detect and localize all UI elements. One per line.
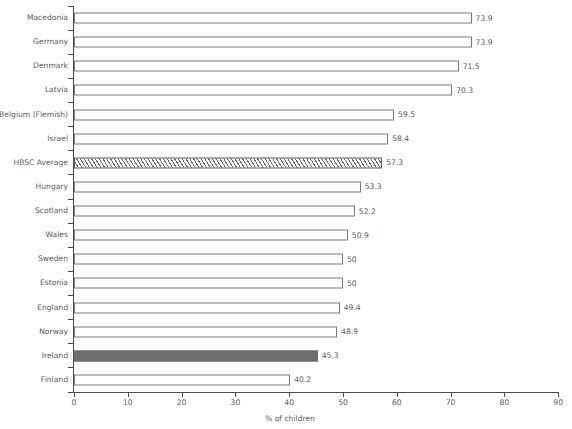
bar — [74, 326, 337, 337]
bar — [74, 206, 355, 217]
x-tick-mark — [451, 392, 452, 397]
x-tick-label: 30 — [231, 399, 241, 407]
bar-row: Hungary53.3 — [0, 175, 572, 199]
y-axis-tick — [68, 367, 74, 368]
bar-row: Finland40.2 — [0, 368, 572, 392]
bar-container: 53.3 — [74, 181, 361, 192]
bar-row: Estonia50 — [0, 271, 572, 295]
bar — [74, 157, 382, 168]
x-tick-label: 90 — [553, 399, 563, 407]
y-axis-tick — [68, 54, 74, 55]
category-label: Macedonia — [27, 14, 68, 22]
bar — [74, 302, 340, 313]
bar-row: Wales50.9 — [0, 223, 572, 247]
y-axis-tick — [68, 126, 74, 127]
bar-row: Ireland45.3 — [0, 344, 572, 368]
category-label: Norway — [39, 328, 68, 336]
y-axis-tick — [68, 174, 74, 175]
bar-container: 50.9 — [74, 230, 348, 241]
bar — [74, 254, 343, 265]
bar-value-label: 52.2 — [359, 207, 376, 215]
y-axis-tick — [68, 6, 74, 7]
bar-row: Belgium (Flemish)59.5 — [0, 103, 572, 127]
category-label: Hungary — [36, 183, 68, 191]
bar-value-label: 48.9 — [341, 328, 358, 336]
bar-container: 50 — [74, 254, 343, 265]
category-label: Germany — [33, 38, 68, 46]
category-label: Israel — [47, 135, 68, 143]
bar-value-label: 45.3 — [322, 352, 339, 360]
y-axis-tick — [68, 78, 74, 79]
bar — [74, 374, 290, 385]
bar-rows: Macedonia73.9Germany73.9Denmark71.5Latvi… — [0, 6, 572, 392]
x-tick-mark — [504, 392, 505, 397]
x-tick-mark — [182, 392, 183, 397]
x-tick-mark — [343, 392, 344, 397]
x-axis-ticks: 0102030405060708090 — [0, 392, 572, 412]
bar — [74, 133, 388, 144]
bar-value-label: 53.3 — [365, 183, 382, 191]
bar-value-label: 73.9 — [476, 14, 493, 22]
category-label: Finland — [41, 376, 68, 384]
bar-value-label: 49.4 — [344, 304, 361, 312]
x-tick-label: 20 — [177, 399, 187, 407]
bar-container: 48.9 — [74, 326, 337, 337]
x-tick-mark — [558, 392, 559, 397]
bar-value-label: 50.9 — [352, 231, 369, 239]
bar — [74, 13, 472, 24]
y-axis-tick — [68, 199, 74, 200]
bar-value-label: 57.3 — [386, 159, 403, 167]
y-axis-tick — [68, 295, 74, 296]
bar-row: England49.4 — [0, 296, 572, 320]
bar-row: Denmark71.5 — [0, 54, 572, 78]
bar-container: 45.3 — [74, 350, 318, 361]
bar-value-label: 59.5 — [398, 111, 415, 119]
bar-container: 70.3 — [74, 85, 452, 96]
y-axis-tick — [68, 30, 74, 31]
bar-container: 73.9 — [74, 13, 472, 24]
bar — [74, 230, 348, 241]
y-axis-tick — [68, 319, 74, 320]
category-label: Estonia — [40, 280, 68, 288]
category-label: Ireland — [42, 352, 68, 360]
category-label: England — [37, 304, 68, 312]
bar — [74, 61, 459, 72]
bar — [74, 181, 361, 192]
bar-value-label: 73.9 — [476, 38, 493, 46]
bar-row: Norway48.9 — [0, 320, 572, 344]
x-axis-title-text: % of children — [265, 414, 315, 423]
x-tick-mark — [289, 392, 290, 397]
x-tick-label: 60 — [392, 399, 402, 407]
bar-row: Scotland52.2 — [0, 199, 572, 223]
bar-container: 58.4 — [74, 133, 388, 144]
bar-container: 40.2 — [74, 374, 290, 385]
bar — [74, 85, 452, 96]
x-tick-mark — [397, 392, 398, 397]
bar-container: 59.5 — [74, 109, 394, 120]
bar — [74, 350, 318, 361]
category-label: Latvia — [45, 87, 68, 95]
bar-container: 50 — [74, 278, 343, 289]
x-tick-mark — [235, 392, 236, 397]
bar-value-label: 70.3 — [456, 87, 473, 95]
category-label: Denmark — [33, 63, 68, 71]
category-label: Wales — [46, 231, 68, 239]
bar-row: Sweden50 — [0, 247, 572, 271]
bar-row: Germany73.9 — [0, 30, 572, 54]
bar-container: 49.4 — [74, 302, 340, 313]
bar-container: 57.3 — [74, 157, 382, 168]
x-tick-label: 80 — [500, 399, 510, 407]
y-axis-tick — [68, 271, 74, 272]
bar-row: Macedonia73.9 — [0, 6, 572, 30]
bar-row: Israel58.4 — [0, 127, 572, 151]
x-tick-label: 10 — [123, 399, 133, 407]
y-axis-tick — [68, 223, 74, 224]
x-tick-label: 50 — [338, 399, 348, 407]
bar — [74, 278, 343, 289]
bar-value-label: 50 — [347, 280, 357, 288]
horizontal-bar-chart: Macedonia73.9Germany73.9Denmark71.5Latvi… — [0, 0, 572, 429]
y-axis-tick — [68, 247, 74, 248]
bar-value-label: 71.5 — [463, 63, 480, 71]
x-tick-label: 70 — [446, 399, 456, 407]
bar-container: 73.9 — [74, 37, 472, 48]
